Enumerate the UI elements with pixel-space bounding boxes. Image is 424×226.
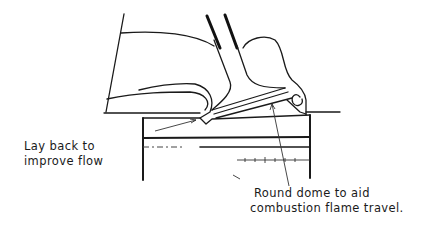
annotation-lay-back: Lay back to improve flow <box>24 139 103 169</box>
valve-stem-right <box>237 46 285 88</box>
port-lower-wall <box>107 92 208 110</box>
piston-lower-mark <box>233 175 240 179</box>
piston-crown <box>143 115 310 124</box>
piston-ring-1 <box>143 137 310 138</box>
valve-head <box>212 88 292 118</box>
annotation-lay-back-line-1: Lay back to <box>24 139 103 154</box>
dome-inner <box>287 100 306 114</box>
annotation-round-dome: Round dome to aid combustion flame trave… <box>250 186 404 216</box>
annotation-round-dome-line-2: combustion flame travel. <box>250 201 404 216</box>
valve-guide-right <box>225 15 237 48</box>
annotation-round-dome-line-1: Round dome to aid <box>250 186 404 201</box>
annotation-lay-back-line-2: improve flow <box>24 154 103 169</box>
port-upper-wall <box>121 32 214 46</box>
lay-back-leader <box>155 120 196 131</box>
chamber-wall <box>243 37 306 115</box>
valve-stem-left <box>212 40 231 110</box>
spark-plug-tip <box>292 95 302 106</box>
